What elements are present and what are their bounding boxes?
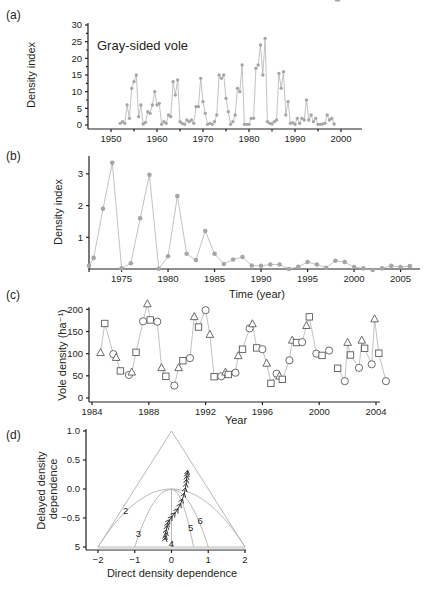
region-label-6: 6 (198, 515, 203, 526)
square-marker (225, 371, 231, 377)
data-point (259, 264, 264, 269)
x-axis-title-c: Year (225, 414, 248, 426)
square-marker (279, 376, 285, 382)
data-point (324, 265, 329, 270)
data-point (135, 73, 138, 76)
data-point (199, 77, 202, 80)
data-point (227, 110, 230, 113)
y-tick-label: 50 (72, 370, 83, 381)
data-point (174, 93, 177, 96)
data-point (212, 251, 217, 256)
data-point (296, 264, 301, 269)
data-point (277, 72, 280, 75)
data-point (286, 100, 289, 103)
region-label-3: 3 (136, 528, 141, 539)
y-axis-title-d: Delayed density dependence (35, 448, 59, 529)
triangle-marker (358, 336, 366, 343)
y-tick-label: 5 (75, 541, 80, 552)
triangle-marker (144, 300, 152, 307)
data-point (110, 161, 115, 166)
x-tick-label: −1 (129, 554, 140, 565)
x-tick-label: 2000 (330, 133, 351, 144)
data-point (222, 73, 225, 76)
triangle-marker (371, 315, 379, 322)
data-point (224, 97, 227, 100)
data-point (342, 260, 347, 265)
data-point (296, 117, 299, 120)
data-point (119, 266, 124, 271)
data-point (91, 256, 96, 261)
data-point (175, 194, 180, 199)
data-point (220, 77, 223, 80)
data-point (215, 113, 218, 116)
x-tick-label: 1 (206, 554, 211, 565)
x-tick-label: 1990 (284, 133, 305, 144)
data-point (231, 120, 234, 123)
chart-panel-c: Vole density (ha⁻¹) Year 050100150200198… (56, 300, 390, 426)
y-tick-label: 0.5 (67, 454, 80, 465)
square-marker (195, 324, 201, 330)
data-point (314, 117, 317, 120)
x-tick-label: 2 (242, 554, 247, 565)
data-point (352, 265, 357, 270)
x-tick-label: 2000 (309, 406, 330, 417)
trajectory-arrows (162, 470, 190, 542)
data-point (361, 266, 366, 271)
data-point (144, 121, 147, 124)
x-tick-label: 1992 (195, 406, 216, 417)
data-point (332, 122, 335, 125)
circle-marker (171, 382, 178, 389)
figure-canvas: Gray-sided vole Density index 0510152025… (0, 0, 435, 589)
data-point (240, 255, 245, 260)
circle-marker (355, 364, 362, 371)
square-marker (334, 365, 340, 371)
y-tick-label: 20 (71, 53, 82, 64)
circle-marker (368, 361, 375, 368)
data-point (268, 262, 273, 267)
data-point (139, 103, 142, 106)
square-marker (117, 368, 123, 374)
circle-marker (140, 318, 147, 325)
data-point (101, 206, 106, 211)
data-point (259, 43, 262, 46)
data-point (171, 80, 174, 83)
x-tick-label: 1988 (138, 406, 159, 417)
series-c (97, 300, 390, 389)
data-point (147, 173, 152, 178)
data-point (213, 120, 216, 123)
data-point (192, 122, 195, 125)
data-point (222, 262, 227, 267)
triangle-marker (303, 322, 311, 329)
triangle-marker (206, 330, 214, 337)
data-point (257, 63, 260, 66)
y-axis-title-b: Density index (52, 178, 64, 245)
data-point (312, 120, 315, 123)
data-point (169, 115, 172, 118)
data-point (236, 87, 239, 90)
triangle-marker (263, 359, 271, 366)
y-tick-label: 30 (71, 19, 82, 30)
region-label-4: 4 (169, 538, 174, 549)
data-point (305, 260, 310, 265)
data-point (326, 113, 329, 116)
chart-title-gray-sided-vole: Gray-sided vole (97, 38, 188, 53)
data-point (151, 103, 154, 106)
triangle-marker (158, 364, 166, 371)
data-point (275, 118, 278, 121)
y-tick-label: 1.0 (67, 425, 80, 436)
square-marker (347, 352, 353, 358)
x-tick-label: 2004 (365, 406, 386, 417)
data-point (309, 113, 312, 116)
data-point (130, 87, 133, 90)
y-tick-label: 100 (67, 348, 83, 359)
circle-marker (341, 378, 348, 385)
square-marker (319, 352, 325, 358)
triangle-marker (249, 320, 257, 327)
data-point (165, 122, 168, 125)
data-point (293, 123, 296, 126)
x-tick-label: 1975 (111, 273, 132, 284)
data-point (298, 122, 301, 125)
data-point (263, 37, 266, 40)
data-point (282, 70, 285, 73)
square-marker (361, 345, 367, 351)
